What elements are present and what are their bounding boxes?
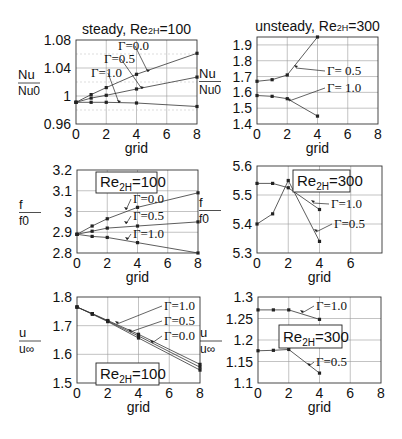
data-point-marker xyxy=(316,35,319,38)
data-point-marker xyxy=(106,236,109,239)
y-label-denominator: f0 xyxy=(19,214,29,228)
y-axis-label: ff0 xyxy=(19,197,41,228)
gamma-label: Γ=0.0 xyxy=(133,191,164,206)
data-point-marker xyxy=(271,212,274,215)
data-point-marker xyxy=(198,366,201,369)
x-tick-label: 2 xyxy=(104,385,112,401)
y-tick-label: 1.3 xyxy=(234,289,254,305)
x-tick-label: 6 xyxy=(347,255,355,271)
x-tick-label: 0 xyxy=(73,385,81,401)
data-point-marker xyxy=(256,349,259,352)
data-point-marker xyxy=(106,217,109,220)
y-tick-label: 1.4 xyxy=(233,116,253,132)
chart-panel-f-steady: 024682.82.933.13.2gridff0Re2H=100Γ=0.0Γ=… xyxy=(19,162,202,285)
y-axis-label: uu∞ xyxy=(200,325,222,356)
leader-line xyxy=(316,224,332,232)
figure-canvas: 024680.9611.041.08gridNuNu0steady, Re2H=… xyxy=(0,0,402,439)
x-axis-label: grid xyxy=(308,269,331,285)
y-tick-label: 1.9 xyxy=(233,37,253,53)
title-tail: =300 xyxy=(348,18,380,34)
leader-line xyxy=(130,321,162,332)
gamma-label: Γ=1.0 xyxy=(164,298,195,313)
data-point-marker xyxy=(196,251,199,254)
x-tick-label: 6 xyxy=(163,126,171,142)
x-tick-label: 2 xyxy=(285,385,293,401)
data-point-marker xyxy=(272,308,275,311)
y-tick-label: 1.15 xyxy=(226,354,253,370)
y-tick-label: 1.5 xyxy=(233,100,253,116)
legend-subscript: 2H xyxy=(119,182,132,193)
x-tick-label: 6 xyxy=(165,385,173,401)
data-point-marker xyxy=(90,93,93,96)
legend-tail: =300 xyxy=(315,328,349,345)
x-tick-label: 0 xyxy=(253,126,261,142)
legend-tail: =100 xyxy=(132,365,166,382)
title-tail: =100 xyxy=(159,21,191,37)
y-tick-label: 1.7 xyxy=(233,69,253,85)
y-tick-label: 1 xyxy=(63,88,71,104)
data-point-marker xyxy=(272,349,275,352)
gamma-label: Γ=1.0 xyxy=(331,196,362,211)
data-point-marker xyxy=(271,95,274,98)
gamma-label: Γ= 1.0 xyxy=(327,80,361,95)
y-tick-label: 0.96 xyxy=(44,116,71,132)
data-point-marker xyxy=(106,227,109,230)
y-tick-label: 5.3 xyxy=(233,245,253,261)
data-point-marker xyxy=(91,230,94,233)
reynolds-legend-box: Re2H=100 xyxy=(96,363,166,385)
data-point-marker xyxy=(105,94,108,97)
data-point-marker xyxy=(255,80,258,83)
y-axis-label: NuNu0 xyxy=(18,67,40,98)
chart-title: unsteady, Re2H=300 xyxy=(255,18,380,34)
legend-subscript: 2H xyxy=(302,337,315,348)
x-tick-label: 8 xyxy=(377,385,385,401)
data-point-marker xyxy=(198,363,201,366)
legend-tail: =100 xyxy=(132,173,166,190)
y-tick-label: 3.2 xyxy=(53,162,73,178)
data-point-marker xyxy=(318,372,321,375)
y-tick-label: 1.5 xyxy=(53,375,73,391)
chart-panel-u-unsteady: 024681.11.151.21.251.3griduu∞Re2H=300Γ=1… xyxy=(200,289,385,415)
y-label-denominator: Nu0 xyxy=(18,84,40,98)
data-point-marker xyxy=(135,87,138,90)
data-point-marker xyxy=(75,233,78,236)
legend-main: Re xyxy=(100,365,119,382)
data-point-marker xyxy=(91,224,94,227)
y-tick-label: 1.8 xyxy=(53,289,73,305)
data-point-marker xyxy=(316,114,319,117)
y-tick-label: 3 xyxy=(64,204,72,220)
data-point-marker xyxy=(91,235,94,238)
data-point-marker xyxy=(318,240,321,243)
gamma-label: Γ=1.0 xyxy=(316,298,347,313)
y-label-denominator: f0 xyxy=(199,212,209,226)
y-label-numerator: u xyxy=(19,325,26,340)
y-label-numerator: u xyxy=(200,325,207,340)
gamma-annotation: Γ=1.0 xyxy=(300,298,347,313)
x-tick-label: 0 xyxy=(73,255,81,271)
arrow-head-icon xyxy=(294,65,298,68)
data-point-marker xyxy=(255,182,258,185)
data-point-marker xyxy=(287,186,290,189)
leader-line xyxy=(302,306,314,313)
y-tick-label: 1.1 xyxy=(234,375,254,391)
y-tick-label: 5.6 xyxy=(233,158,253,174)
y-tick-label: 1.08 xyxy=(44,32,71,48)
y-tick-label: 5.4 xyxy=(233,216,253,232)
data-point-marker xyxy=(318,318,321,321)
y-label-numerator: Nu xyxy=(18,67,35,82)
data-point-marker xyxy=(105,86,108,89)
legend-subscript: 2H xyxy=(119,374,132,385)
leader-line xyxy=(313,203,329,204)
y-tick-label: 2.8 xyxy=(53,245,73,261)
x-tick-label: 0 xyxy=(253,255,261,271)
x-tick-label: 0 xyxy=(254,385,262,401)
y-axis-label: uu∞ xyxy=(19,325,41,356)
chart-figure: 024680.9611.041.08gridNuNu0steady, Re2H=… xyxy=(0,0,402,439)
leader-line xyxy=(152,336,162,343)
x-tick-label: 6 xyxy=(344,126,352,142)
data-point-marker xyxy=(256,308,259,311)
leader-line xyxy=(117,306,162,324)
y-label-numerator: f xyxy=(19,197,23,212)
gamma-annotation: Γ=0.0 xyxy=(150,328,195,343)
chart-panel-nu-steady: 024680.9611.041.08gridNuNu0steady, Re2H=… xyxy=(18,21,201,156)
